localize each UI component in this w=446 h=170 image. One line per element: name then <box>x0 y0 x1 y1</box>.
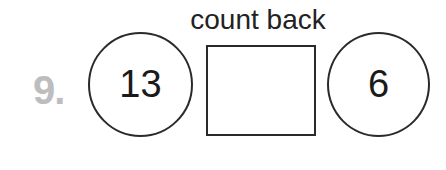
instruction-label: count back <box>179 4 337 36</box>
problem-number: 9. <box>33 70 64 110</box>
start-value: 13 <box>119 63 161 106</box>
end-value-circle: 6 <box>327 32 430 137</box>
start-value-circle: 13 <box>88 32 193 137</box>
end-value: 6 <box>368 63 389 106</box>
answer-box[interactable] <box>206 45 316 136</box>
